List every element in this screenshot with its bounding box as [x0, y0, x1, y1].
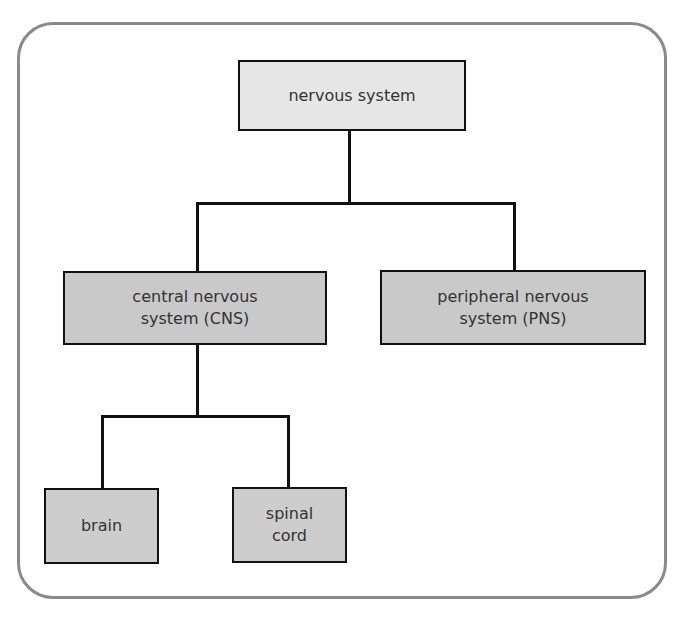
node-spinal-cord: spinal cord: [232, 487, 347, 563]
node-label-line2: cord: [272, 525, 307, 547]
node-cns: central nervous system (CNS): [63, 271, 327, 345]
connector-level2-bar: [101, 415, 290, 418]
connector-to-cns: [196, 202, 199, 273]
node-label-line1: spinal: [266, 503, 313, 525]
connector-to-brain: [101, 415, 104, 489]
node-label-line1: central nervous: [132, 286, 257, 308]
connector-to-spinal-cord: [287, 415, 290, 488]
node-label-line1: peripheral nervous: [437, 286, 588, 308]
node-label: brain: [81, 515, 122, 537]
connector-cns-stem: [196, 344, 199, 417]
node-brain: brain: [44, 488, 159, 564]
node-nervous-system: nervous system: [238, 60, 466, 131]
connector-level1-bar: [196, 202, 516, 205]
node-pns: peripheral nervous system (PNS): [380, 270, 646, 345]
node-label-line2: system (PNS): [459, 308, 566, 330]
connector-root-stem: [348, 130, 351, 204]
node-label-line2: system (CNS): [141, 308, 250, 330]
connector-to-pns: [513, 202, 516, 272]
node-label: nervous system: [288, 85, 415, 107]
